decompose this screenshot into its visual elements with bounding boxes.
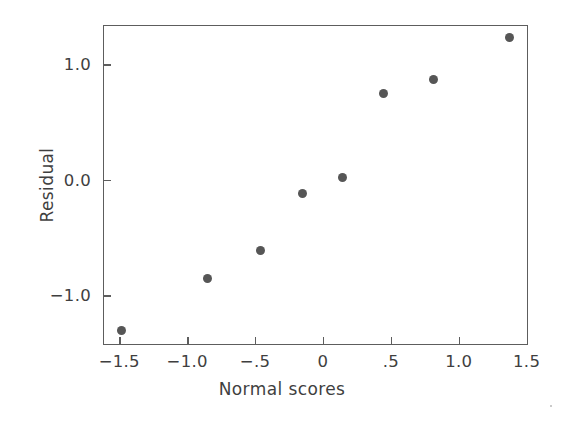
x-axis-title: Normal scores: [0, 379, 564, 399]
y-tick-label: −1.0: [50, 286, 91, 305]
x-tick-mark: [187, 337, 188, 345]
normal-probability-plot-figure: −1.5−1.0−.50.51.01.5 1.00.0−1.0 Normal s…: [0, 0, 564, 421]
y-tick-mark: [103, 64, 111, 65]
page-speck: [550, 405, 552, 407]
x-tick-mark: [391, 337, 392, 345]
x-tick-label: −1.5: [99, 352, 140, 371]
x-tick-label: −1.0: [167, 352, 208, 371]
x-tick-label: .5: [383, 352, 399, 371]
plot-area: [104, 26, 527, 344]
y-axis-title: Residual: [37, 148, 57, 223]
data-point: [203, 274, 212, 283]
y-tick-mark: [103, 295, 111, 296]
data-point: [338, 173, 347, 182]
x-tick-mark: [119, 337, 120, 345]
x-tick-mark: [323, 337, 324, 345]
x-tick-label: −.5: [240, 352, 270, 371]
x-tick-label: 1.5: [513, 352, 540, 371]
x-tick-mark: [255, 337, 256, 345]
data-point: [505, 33, 514, 42]
x-tick-label: 0: [318, 352, 329, 371]
y-tick-mark: [103, 180, 111, 181]
x-tick-mark: [527, 337, 528, 345]
x-tick-mark: [459, 337, 460, 345]
y-tick-label: 1.0: [64, 55, 91, 74]
data-point: [429, 75, 438, 84]
x-tick-label: 1.0: [445, 352, 472, 371]
data-point: [298, 189, 307, 198]
plot-frame: [103, 25, 528, 345]
data-point: [256, 246, 265, 255]
data-point: [379, 89, 388, 98]
data-point: [117, 326, 126, 335]
y-tick-label: 0.0: [64, 170, 91, 189]
